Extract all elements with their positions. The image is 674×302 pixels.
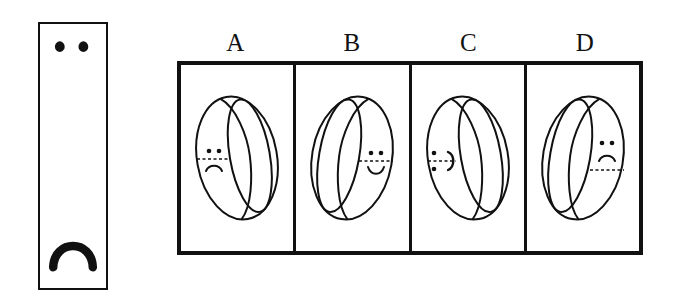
ring-drawing-d <box>527 73 639 243</box>
stimulus-eye-left <box>55 41 65 52</box>
eye-bottom-c <box>431 167 436 172</box>
option-cell-d[interactable] <box>527 65 639 251</box>
option-label-b: B <box>294 25 411 61</box>
option-label-c: C <box>410 25 527 61</box>
option-cell-a[interactable] <box>181 65 296 251</box>
eye-left-d <box>600 141 605 146</box>
eye-right-d <box>610 141 615 146</box>
option-cell-c[interactable] <box>412 65 527 251</box>
stimulus-frown-arc <box>53 246 93 267</box>
stimulus-drawing <box>40 24 106 288</box>
eye-right-a <box>217 149 222 154</box>
stimulus-eye-right <box>78 41 88 52</box>
option-cell-b[interactable] <box>296 65 411 251</box>
eye-left-b <box>369 151 374 156</box>
option-label-d: D <box>527 25 644 61</box>
options-box <box>177 61 643 255</box>
stimulus-panel <box>38 22 108 290</box>
option-label-row: A B C D <box>177 25 643 61</box>
eye-left-a <box>207 149 212 154</box>
figure-root: A B C D <box>0 0 674 302</box>
ring-drawing-a <box>181 73 293 243</box>
eye-right-b <box>379 151 384 156</box>
eye-top-c <box>431 151 436 156</box>
ring-drawing-b <box>296 73 408 243</box>
ring-drawing-c <box>412 73 524 243</box>
option-label-a: A <box>177 25 294 61</box>
